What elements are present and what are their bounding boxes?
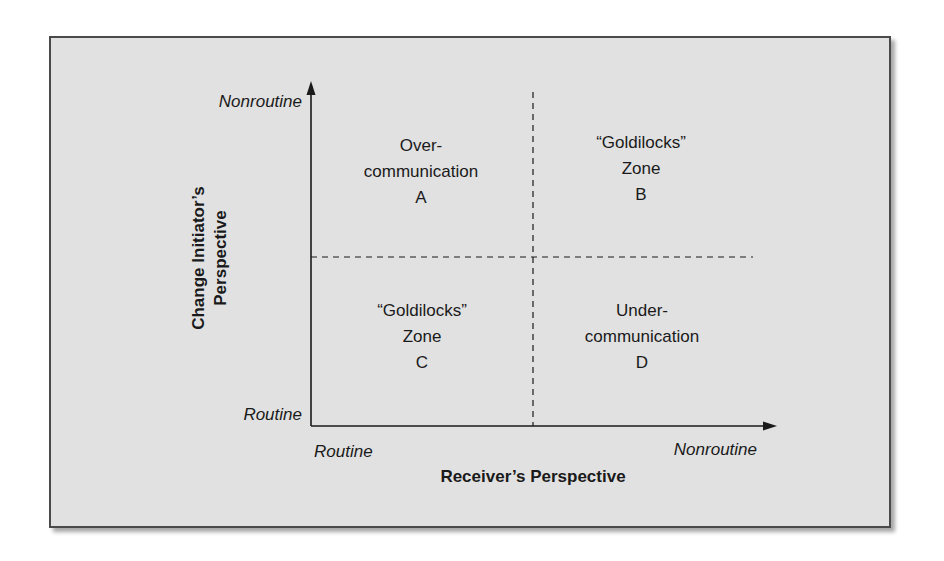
quadrant-a-letter: A [364,185,478,211]
x-axis-high-label: Nonroutine [674,441,757,458]
y-axis-arrow-icon [307,81,316,95]
x-axis-arrow-icon [763,422,777,431]
quadrant-c-letter: C [377,350,467,376]
x-axis-title: Receiver’s Perspective [440,468,625,485]
quadrant-a-line1: Over- [364,133,478,159]
quadrant-d-line1: Under- [585,298,699,324]
quadrant-b-line1: “Goldilocks” [596,130,686,156]
quadrant-c-line1: “Goldilocks” [377,298,467,324]
y-axis-high-label: Nonroutine [219,93,302,110]
quadrant-d: Under- communication D [585,298,699,376]
quadrant-c-line2: Zone [377,324,467,350]
quadrant-b-letter: B [596,182,686,208]
quadrant-d-letter: D [585,350,699,376]
y-axis-title-line2: Perspective [210,186,232,330]
quadrant-d-line2: communication [585,324,699,350]
y-axis-low-label: Routine [243,406,302,423]
y-axis-title: Change Initiator’s Perspective [188,186,232,330]
x-axis-low-label: Routine [314,443,373,460]
quadrant-c: “Goldilocks” Zone C [377,298,467,376]
quadrant-a-line2: communication [364,159,478,185]
quadrant-b: “Goldilocks” Zone B [596,130,686,208]
y-axis-title-line1: Change Initiator’s [188,186,210,330]
quadrant-a: Over- communication A [364,133,478,211]
quadrant-b-line2: Zone [596,156,686,182]
